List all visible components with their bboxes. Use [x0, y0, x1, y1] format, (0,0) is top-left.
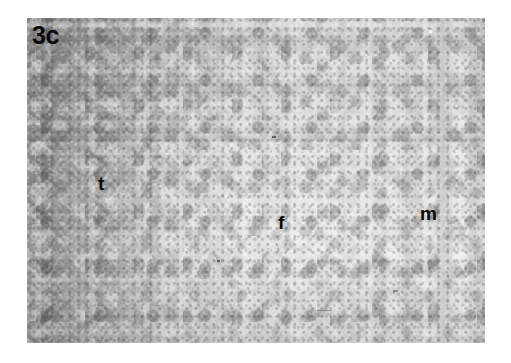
dust-speck	[429, 30, 432, 33]
annotation-label-f: f	[278, 213, 284, 232]
dust-speck	[393, 290, 398, 292]
texture-tumour-region	[27, 18, 485, 343]
scratch-mark	[317, 310, 332, 311]
figure-page: 3c t f m	[0, 0, 511, 363]
texture-vignette	[27, 18, 485, 343]
texture-cell-clumps	[27, 18, 485, 343]
dust-speck	[272, 136, 276, 138]
annotation-label-m: m	[420, 204, 437, 223]
texture-base-tone	[27, 18, 485, 343]
dust-speck	[217, 260, 220, 262]
panel-label: 3c	[32, 23, 59, 48]
texture-film-grain	[27, 18, 485, 343]
annotation-label-t: t	[98, 174, 104, 193]
texture-fibrous-streaks	[27, 18, 485, 343]
micrograph-image: 3c t f m	[27, 18, 485, 343]
texture-muscle-region	[27, 18, 485, 343]
